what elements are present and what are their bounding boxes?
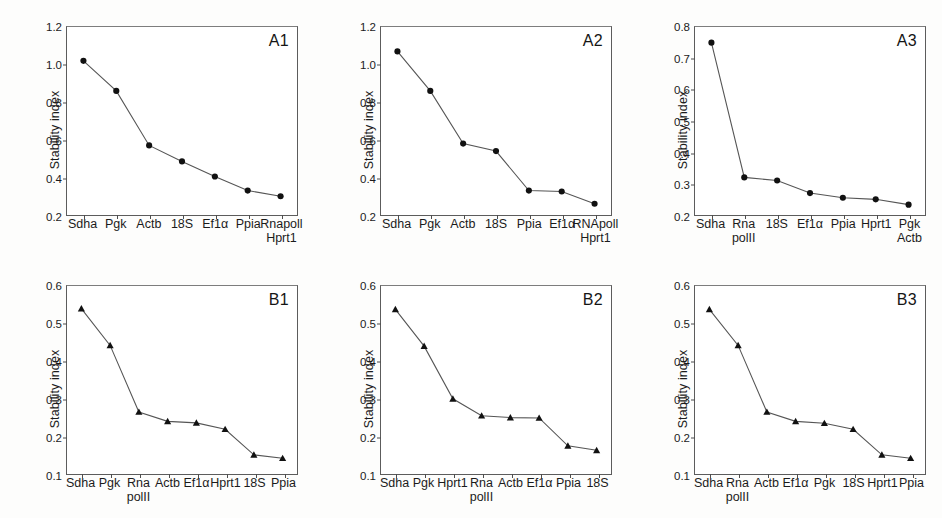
x-tick-label: Hprt1 (867, 477, 898, 491)
y-tick-label: 0.8 (46, 97, 62, 109)
x-axis-labels: SdhaPgkActb18SEf1αPpiaRnapollHprt1 (66, 218, 298, 258)
x-tick-label: Ef1α (184, 477, 210, 491)
y-tick-label: 0.2 (360, 211, 376, 223)
y-tick-label: 0.8 (674, 21, 690, 33)
data-point (905, 202, 911, 208)
x-axis-labels: SdhaPgkHprt1RnapolIIActbEf1αPpia18S (380, 477, 612, 517)
y-tick-label: 0.2 (674, 432, 690, 444)
y-tick-label: 0.6 (46, 280, 62, 292)
x-tick-label: RnapolII (127, 477, 151, 504)
plot-area: A30.20.30.40.50.60.70.8 (694, 26, 926, 216)
data-point (591, 201, 597, 207)
x-tick-label-line1: Pgk (419, 217, 441, 231)
panel-a3: Stability indexA30.20.30.40.50.60.70.8Sd… (628, 0, 942, 259)
x-tick-label-line1: Ppia (236, 217, 261, 231)
plot-area: A10.20.40.60.81.01.2 (66, 26, 298, 216)
x-tick-label: Hprt1 (437, 477, 468, 491)
data-point (460, 140, 466, 146)
y-tick-label: 0.6 (674, 280, 690, 292)
y-tick-label: 0.5 (674, 116, 690, 128)
x-tick-label-line1: Ppia (556, 476, 581, 490)
x-tick-label: Pgk (99, 477, 121, 491)
data-point (774, 177, 780, 183)
x-axis-labels: SdhaRnapolIIActbEf1αPgk18SHprt1Ppia (694, 477, 926, 517)
data-point (706, 306, 713, 312)
x-tick-label: Actb (155, 477, 180, 491)
y-tick-label: 0.4 (46, 356, 62, 368)
x-tick-label: Ef1α (797, 218, 823, 232)
y-tick-label: 0.6 (674, 84, 690, 96)
x-tick-label: 18S (586, 477, 608, 491)
series-line (81, 309, 282, 459)
y-tick-label: 0.2 (674, 211, 690, 223)
x-tick-label: Actb (136, 218, 161, 232)
x-tick-label-line1: Ef1α (184, 476, 210, 490)
x-tick-label-line2: polII (726, 491, 750, 505)
x-tick-label-line1: Ef1α (549, 217, 575, 231)
x-tick-label: Sdha (66, 477, 95, 491)
plot-area: B30.10.20.30.40.50.6 (694, 285, 926, 475)
data-point (763, 408, 770, 414)
y-tick-label: 0.1 (46, 470, 62, 482)
x-tick-label-line1: Pgk (105, 217, 127, 231)
x-tick-label-line2: polII (732, 232, 756, 246)
x-tick-label: 18S (485, 218, 507, 232)
series-overlay (695, 286, 925, 474)
data-point (807, 190, 813, 196)
x-tick-label-line1: Ef1α (202, 217, 228, 231)
x-tick-label-line1: Ppia (271, 476, 296, 490)
x-tick-label-line1: Rnapoll (260, 217, 302, 231)
data-point (80, 58, 86, 64)
x-tick-label-line2: Actb (897, 232, 922, 246)
data-point (873, 196, 879, 202)
x-tick-label-line1: Hprt1 (861, 217, 892, 231)
y-tick-label: 0.3 (360, 394, 376, 406)
y-tick-label: 0.2 (46, 211, 62, 223)
y-tick-label: 0.5 (360, 318, 376, 330)
x-tick-label: Sdha (382, 218, 411, 232)
y-tick-label: 0.6 (360, 280, 376, 292)
data-point (146, 142, 152, 148)
x-tick-label-line1: 18S (485, 217, 507, 231)
x-tick-label-line1: Pgk (899, 217, 921, 231)
x-tick-label: PgkActb (897, 218, 922, 245)
data-point (427, 88, 433, 94)
y-tick-label: 0.4 (360, 356, 376, 368)
x-tick-label-line1: Actb (155, 476, 180, 490)
x-tick-label-line1: Hprt1 (210, 476, 241, 490)
x-tick-label: Pgk (105, 218, 127, 232)
x-tick-label-line1: Actb (498, 476, 523, 490)
panel-b3: Stability indexB30.10.20.30.40.50.6SdhaR… (628, 259, 942, 518)
y-tick-label: 0.4 (674, 148, 690, 160)
x-tick-label: 18S (766, 218, 788, 232)
x-tick-label-line2: polII (127, 491, 151, 505)
x-tick-label-line1: 18S (766, 217, 788, 231)
panel-b1: Stability indexB10.10.20.30.40.50.6SdhaP… (0, 259, 314, 518)
y-tick-label: 0.3 (674, 179, 690, 191)
x-tick-label: Pgk (413, 477, 435, 491)
x-tick-label-line1: Actb (450, 217, 475, 231)
data-point (708, 40, 714, 46)
y-tick-label: 0.5 (46, 318, 62, 330)
series-overlay (381, 286, 611, 474)
x-tick-label-line1: Sdha (696, 217, 725, 231)
series-line (397, 51, 594, 203)
x-tick-label-line1: Sdha (68, 217, 97, 231)
panel-b2: Stability indexB20.10.20.30.40.50.6SdhaP… (314, 259, 628, 518)
x-tick-label-line1: Rna (726, 476, 749, 490)
series-overlay (67, 27, 297, 215)
x-tick-label-line1: Actb (136, 217, 161, 231)
x-tick-label-line1: 18S (586, 476, 608, 490)
x-tick-label: Hprt1 (861, 218, 892, 232)
data-point (392, 306, 399, 312)
x-tick-label: RnapolII (726, 477, 750, 504)
x-tick-label: Actb (754, 477, 779, 491)
x-tick-label-line1: RNApoll (572, 217, 618, 231)
y-tick-label: 1.2 (46, 21, 62, 33)
y-tick-label: 0.3 (46, 394, 62, 406)
x-tick-label: Hprt1 (210, 477, 241, 491)
series-line (711, 43, 908, 205)
data-point (113, 88, 119, 94)
y-tick-label: 0.4 (674, 356, 690, 368)
x-tick-label-line1: Pgk (413, 476, 435, 490)
